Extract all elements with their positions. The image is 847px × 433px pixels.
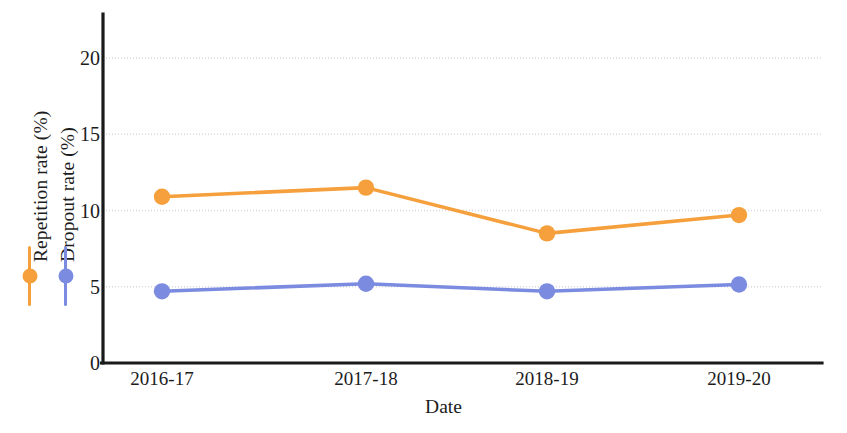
- data-point: [358, 179, 374, 195]
- plot-area: [0, 0, 847, 433]
- data-point: [731, 207, 747, 223]
- data-point: [539, 225, 555, 241]
- line-chart: Repetition rate (%) Dropout rate (%) 051…: [0, 0, 847, 433]
- data-point: [731, 276, 747, 292]
- data-point: [154, 189, 170, 205]
- series-line-2: [162, 284, 739, 292]
- data-point: [358, 276, 374, 292]
- data-point: [539, 283, 555, 299]
- data-point: [154, 283, 170, 299]
